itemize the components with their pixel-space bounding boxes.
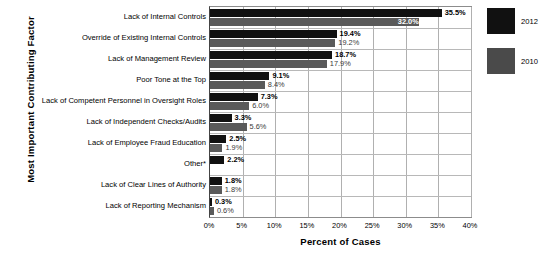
bar-group: 9.1%8.4%: [210, 72, 471, 93]
bar-value-label-2012: 35.5%: [442, 9, 466, 17]
bar-group: 7.3%6.0%: [210, 93, 471, 114]
legend-label-2010: 2010: [521, 57, 538, 66]
bar-2010: [210, 102, 249, 110]
bar-value-label-2012: 2.2%: [224, 156, 244, 164]
bar-value-label-2010: 8.4%: [265, 81, 285, 89]
bar-2010: [210, 81, 265, 89]
bar-group: 2.5%1.9%: [210, 135, 471, 156]
bar-group: 19.4%19.2%: [210, 30, 471, 51]
bar-value-label-2012: 0.3%: [212, 198, 232, 206]
x-tick-label: 25%: [365, 221, 380, 230]
bar-group: 2.2%: [210, 156, 471, 177]
bar-value-label-2012: 18.7%: [332, 51, 356, 59]
bar-2012: [210, 177, 222, 185]
bar-2012: [210, 9, 442, 17]
bar-value-label-2012: 9.1%: [269, 72, 289, 80]
bar-value-label-2010: 0.6%: [214, 207, 234, 215]
bar-value-label-2012: 7.3%: [258, 93, 278, 101]
x-tick-label: 10%: [267, 221, 282, 230]
bar-value-label-2010: 1.9%: [222, 144, 242, 152]
x-tick-label: 20%: [332, 221, 347, 230]
x-axis-title: Percent of Cases: [209, 236, 472, 247]
category-label: Lack of Reporting Mechanism: [22, 202, 206, 210]
bar-chart: Most Important Contributing Factor Lack …: [0, 0, 545, 256]
category-label: Lack of Competent Personnel in Oversight…: [22, 97, 206, 105]
category-label-column: Lack of Internal ControlsOverride of Exi…: [22, 6, 206, 218]
bar-value-label-2010: 17.9%: [327, 60, 351, 68]
category-label: Override of Existing Internal Controls: [22, 34, 206, 42]
bar-2012: [210, 51, 332, 59]
bar-group: 18.7%17.9%: [210, 51, 471, 72]
x-tick-label: 40%: [463, 221, 478, 230]
bar-2012: [210, 135, 226, 143]
category-label: Lack of Employee Fraud Education: [22, 139, 206, 147]
bar-value-label-2012: 1.8%: [222, 177, 242, 185]
bar-2012: [210, 156, 224, 164]
bar-2012: [210, 114, 232, 122]
legend-swatch-2010: [487, 48, 515, 74]
bar-value-label-2012: 19.4%: [337, 30, 361, 38]
bar-2012: [210, 30, 337, 38]
bar-group: 1.8%1.8%: [210, 177, 471, 198]
bar-2012: [210, 93, 258, 101]
bar-2010: [210, 39, 335, 47]
legend-label-2012: 2012: [521, 17, 538, 26]
legend-swatch-2012: [487, 8, 515, 34]
plot-area: 35.5%32.0%19.4%19.2%18.7%17.9%9.1%8.4%7.…: [209, 6, 472, 218]
bar-value-label-2012: 2.5%: [226, 135, 246, 143]
legend-item-2012: 2012: [487, 8, 545, 48]
bar-group: 3.3%5.6%: [210, 114, 471, 135]
category-label: Poor Tone at the Top: [22, 76, 206, 84]
x-tick-label: 35%: [430, 221, 445, 230]
bar-value-label-2012: 3.3%: [232, 114, 252, 122]
bar-2010: [210, 186, 222, 194]
bar-value-label-2010: 6.0%: [249, 102, 269, 110]
bar-group: 35.5%32.0%: [210, 9, 471, 30]
category-label: Lack of Clear Lines of Authority: [22, 181, 206, 189]
legend-item-2010: 2010: [487, 48, 545, 88]
bar-value-label-2010: 1.8%: [222, 186, 242, 194]
bar-value-label-2010: 19.2%: [335, 39, 359, 47]
legend: 2012 2010: [487, 8, 545, 88]
x-tick-label: 15%: [299, 221, 314, 230]
bar-value-label-2010: 32.0%: [210, 18, 422, 26]
x-tick-label: 0%: [204, 221, 215, 230]
bar-2010: [210, 60, 327, 68]
x-tick-label: 30%: [397, 221, 412, 230]
category-label: Lack of Independent Checks/Audits: [22, 118, 206, 126]
category-label: Lack of Internal Controls: [22, 13, 206, 21]
gridline: [471, 7, 472, 217]
bar-2010: [210, 123, 247, 131]
category-label: Lack of Management Review: [22, 55, 206, 63]
bar-2010: [210, 144, 222, 152]
bar-group: 0.3%0.6%: [210, 198, 471, 219]
x-tick-label: 5%: [236, 221, 247, 230]
bar-2012: [210, 72, 269, 80]
category-label: Other*: [22, 160, 206, 168]
bar-value-label-2010: 5.6%: [247, 123, 267, 131]
